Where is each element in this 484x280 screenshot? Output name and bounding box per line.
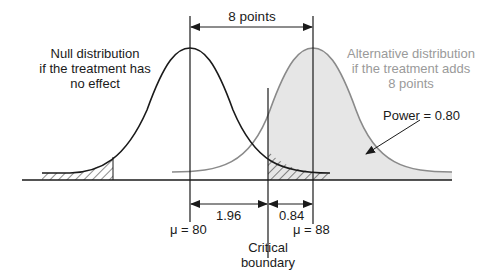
critical-boundary-label: Critical boundary	[236, 240, 300, 270]
top-span-label: 8 points	[220, 9, 284, 24]
power-pointer-arrow	[366, 120, 420, 154]
null-mean-label: μ = 80	[170, 222, 207, 237]
null-left-tail-hatch	[42, 157, 113, 180]
critical-label-line-1: Critical	[236, 240, 300, 255]
segment-right-label: 0.84	[279, 208, 304, 223]
null-distribution-label: Null distribution if the treatment has n…	[35, 46, 155, 91]
alt-label-line-1: Alternative distribution	[346, 46, 476, 61]
critical-label-line-2: boundary	[236, 255, 300, 270]
alternative-mean-label: μ = 88	[293, 222, 330, 237]
alt-label-line-2: if the treatment adds	[346, 61, 476, 76]
segment-left-label: 1.96	[216, 208, 241, 223]
null-label-line-1: Null distribution	[35, 46, 155, 61]
null-label-line-2: if the treatment has	[35, 61, 155, 76]
null-label-line-3: no effect	[35, 76, 155, 91]
power-label: Power = 0.80	[383, 108, 460, 123]
alternative-distribution-label: Alternative distribution if the treatmen…	[346, 46, 476, 91]
power-diagram-canvas	[0, 0, 484, 280]
alt-label-line-3: 8 points	[346, 76, 476, 91]
